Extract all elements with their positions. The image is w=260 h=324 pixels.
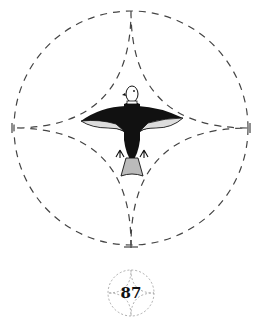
page-number: 87 (115, 284, 147, 302)
figure-drawing (0, 0, 260, 324)
bird-icon (81, 86, 183, 176)
